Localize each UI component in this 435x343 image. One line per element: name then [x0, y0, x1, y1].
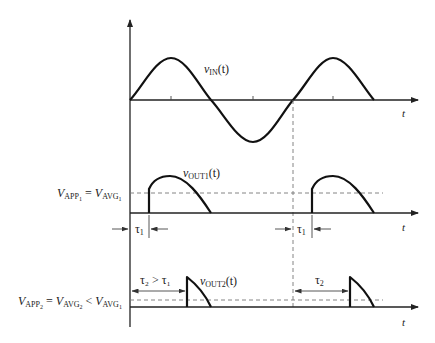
- vout2-pulse-2: [350, 277, 374, 307]
- vout2-label: vOUT2(t): [200, 274, 237, 289]
- tau2-label: τ2: [315, 273, 324, 288]
- waveform-diagram: t vIN(t) t vOUT1(t) VAPP1 = VAVG1 τ1 τ1 …: [0, 0, 435, 343]
- output1-panel: t vOUT1(t) VAPP1 = VAVG1 τ1 τ1: [57, 166, 418, 238]
- vout1-pulse-2: [312, 176, 374, 213]
- tau1-label: τ1: [135, 222, 144, 237]
- t-axis-label-3: t: [402, 316, 406, 328]
- vout1-label: vOUT1(t): [183, 166, 220, 181]
- vin-label: vIN(t): [204, 62, 229, 77]
- tau1-label-2: τ1: [297, 222, 306, 237]
- t-axis-label-2: t: [402, 221, 406, 233]
- vapp2-level-label: VAPP2 = VAVG2 < VAVG1: [18, 294, 122, 310]
- input-panel: t vIN(t): [130, 58, 418, 142]
- t-axis-label-1: t: [402, 107, 406, 119]
- vapp1-level-label: VAPP1 = VAVG1: [57, 186, 121, 202]
- vout1-pulse-1: [149, 176, 211, 213]
- tau2-gt-tau1-label: τ₂ > τ₁: [140, 273, 171, 287]
- output2-panel: t vOUT2(t) VAPP2 = VAVG2 < VAVG1 τ₂ > τ₁…: [18, 273, 418, 328]
